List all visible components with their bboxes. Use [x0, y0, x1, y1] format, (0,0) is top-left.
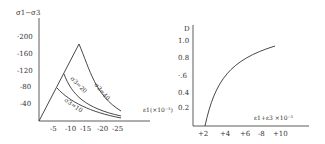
svg-text:-160: -160 [17, 50, 33, 58]
right-chart: D ε1+ε3 ×10⁻³ 1.0 0.8 ·.6 0.4 0.2 +2 +4 … [178, 25, 309, 138]
svg-text:-10: -10 [65, 125, 76, 133]
svg-text:-25: -25 [112, 125, 123, 133]
label-s3-20: σ3=20 [69, 75, 89, 95]
label-s3-40: σ3=40 [93, 81, 112, 101]
left-y-label: σ1−σ3 [16, 9, 40, 17]
right-x-ticks: +2 +4 +6 -8 +10 [198, 130, 288, 138]
svg-text:-15: -15 [80, 125, 91, 133]
svg-text:+10: +10 [273, 130, 288, 138]
svg-text:+6: +6 [240, 130, 251, 138]
svg-text:-8: -8 [258, 130, 265, 138]
svg-text:-80: -80 [20, 83, 31, 91]
svg-text:-20: -20 [97, 125, 108, 133]
svg-text:-40: -40 [20, 100, 31, 108]
svg-text:-120: -120 [17, 67, 33, 75]
svg-text:+4: +4 [220, 130, 231, 138]
left-x-ticks: -5 -10 -15 -20 -25 [50, 125, 123, 133]
svg-text:-5: -5 [50, 125, 57, 133]
svg-text:0.8: 0.8 [178, 54, 189, 62]
right-y-ticks: 1.0 0.8 ·.6 0.4 0.2 [178, 37, 190, 112]
curve-s3-40 [79, 44, 121, 111]
left-y-ticks: -40 -80 -120 -160 ·200 [17, 33, 33, 108]
right-x-label: ε1+ε3 ×10⁻³ [254, 114, 294, 121]
svg-text:0.2: 0.2 [178, 104, 189, 112]
figure: σ1−σ3 ε1(×10⁻³) -40 -80 -120 -160 ·200 -… [0, 0, 325, 144]
right-y-label: D [184, 25, 190, 33]
left-chart: σ1−σ3 ε1(×10⁻³) -40 -80 -120 -160 ·200 -… [16, 9, 173, 133]
svg-text:1.0: 1.0 [178, 37, 189, 45]
svg-text:·200: ·200 [17, 33, 33, 41]
svg-text:0.4: 0.4 [178, 89, 190, 97]
left-x-label: ε1(×10⁻³) [143, 106, 173, 113]
svg-text:·.6: ·.6 [178, 72, 187, 80]
svg-text:+2: +2 [198, 130, 208, 138]
